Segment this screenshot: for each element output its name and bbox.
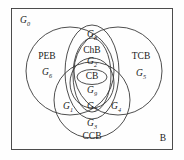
set-label-peb: PEB xyxy=(38,52,55,62)
region-label-g0: G0 xyxy=(20,16,30,27)
region-label-g3: G3 xyxy=(87,119,97,130)
region-label-g6: G6 xyxy=(42,68,52,79)
region-label-g2: G2 xyxy=(87,57,97,68)
venn-diagram: G0 G8 ChB G2 PEB G6 TCB G5 CB G9 G1 G7 G… xyxy=(0,0,184,160)
universe-label-b: B xyxy=(160,134,166,144)
region-label-g5: G5 xyxy=(136,69,146,80)
region-label-g1: G1 xyxy=(63,102,73,113)
region-label-g7: G7 xyxy=(87,102,97,113)
region-label-g9: G9 xyxy=(87,86,97,97)
set-label-ccb: CCB xyxy=(82,132,101,142)
set-label-tcb: TCB xyxy=(132,52,150,62)
region-label-g4: G4 xyxy=(111,102,121,113)
region-label-g8: G8 xyxy=(87,30,97,41)
set-label-chb: ChB xyxy=(83,46,100,56)
set-label-cb: CB xyxy=(86,72,99,82)
